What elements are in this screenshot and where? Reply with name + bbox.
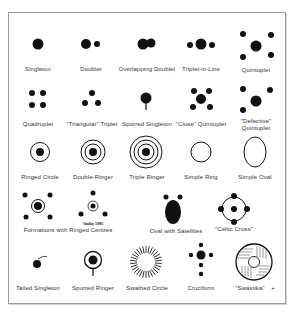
- label-formations-ringed-centres: Formations with Ringed Centres: [24, 227, 113, 233]
- simple-oval-icon: [244, 137, 266, 167]
- label-gadby-1990: Gadby 1990: [83, 222, 103, 226]
- ringed-centre-formations-icon: [23, 191, 108, 220]
- ringed-circle-icon: [31, 143, 50, 162]
- swastika-icon: [236, 244, 272, 280]
- label-simple-oval: Simple Oval: [238, 174, 271, 180]
- double-ringer-icon: [81, 140, 105, 164]
- label-spurred-ringer: Spurred Ringer: [72, 285, 114, 291]
- label-defective: "Defective": [241, 118, 271, 124]
- triple-ringer-icon: [130, 136, 162, 168]
- close-quintuplet-icon: [190, 88, 213, 110]
- label-swastika: "Swastika": [235, 285, 264, 291]
- spurred-ringer-icon: [85, 252, 102, 277]
- label-triangular-triplet: "Triangular" Triplet: [66, 121, 117, 127]
- label-tailed-singleton: Tailed Singleton: [16, 285, 60, 291]
- label-close-quintuplet: "Close" Quintuplet: [176, 121, 226, 127]
- label-double-ringer: Double-Ringer: [73, 174, 113, 180]
- label-cruciform: Cruciform: [188, 285, 215, 291]
- label-oval-with-satellites: Oval with Satellites: [150, 228, 203, 234]
- label-spurred-singleton: Spurred Singleton: [122, 121, 172, 127]
- label-singleton: Singleton: [25, 66, 51, 72]
- celtic-cross-icon: [218, 193, 250, 225]
- oval-with-satellites-icon: [164, 195, 183, 225]
- tailed-singleton-icon: [33, 256, 47, 268]
- label-swastika-marker: +: [271, 285, 275, 291]
- simple-ring-icon: [191, 142, 211, 162]
- defective-quintuplet-icon: [240, 86, 273, 113]
- formation-diagrams: [0, 0, 300, 315]
- label-quintuplet: Quintuplet: [242, 67, 270, 73]
- label-overlapping-doublet: Overlapping Doublet: [119, 66, 176, 72]
- label-doublet: Doublet: [80, 66, 101, 72]
- label-triplet-in-line: Triplet-in-Line: [182, 66, 220, 72]
- spurred-singleton-icon: [141, 93, 152, 111]
- label-triple-ringer: Triple Ringer: [129, 174, 164, 180]
- label-simple-ring: Simple Ring: [184, 174, 217, 180]
- triplet-in-line-icon: [187, 39, 215, 50]
- label-quintuplet-2: Quintuplet: [242, 125, 270, 131]
- label-quadruplet: Quadruplet: [23, 121, 54, 127]
- overlapping-doublet-icon: [138, 39, 156, 50]
- label-celtic-cross: "Celtic Cross": [215, 226, 253, 232]
- swathed-circle-icon: [130, 246, 162, 278]
- doublet-icon: [81, 39, 100, 49]
- triangular-triplet-icon: [82, 90, 101, 106]
- singleton-icon: [33, 39, 44, 50]
- label-ringed-circle: Ringed Circle: [21, 174, 58, 180]
- quintuplet-icon: [240, 31, 274, 60]
- cruciform-icon: [189, 243, 213, 276]
- label-swathed-circle: Swathed Circle: [126, 285, 168, 291]
- quadruplet-icon: [29, 90, 46, 108]
